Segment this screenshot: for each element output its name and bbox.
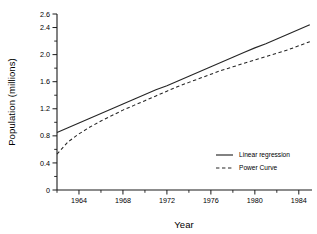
y-axis-title: Population (millions): [6, 58, 17, 146]
y-tick-label: 0: [46, 186, 50, 195]
x-axis-ticks: [57, 190, 299, 195]
y-axis-tick-labels: 00.40.81.21.62.02.42.6: [40, 10, 50, 195]
y-axis-ticks: [53, 14, 58, 190]
y-tick-label: 2.6: [40, 10, 50, 19]
legend-label: Power Curve: [239, 164, 277, 171]
y-tick-label: 0.4: [40, 159, 50, 168]
x-tick-label: 1976: [203, 196, 219, 205]
series-dashed: [57, 42, 310, 154]
x-tick-label: 1964: [71, 196, 87, 205]
x-axis-title: Year: [174, 219, 194, 230]
chart-legend: Linear regressionPower Curve: [216, 151, 290, 171]
y-tick-label: 1.2: [40, 104, 50, 113]
y-tick-label: 2.0: [40, 50, 50, 59]
y-tick-label: 1.6: [40, 77, 50, 86]
y-tick-label: 2.4: [40, 23, 50, 32]
x-axis-tick-labels: 196419681972197619801984: [71, 196, 307, 205]
population-line-chart: 00.40.81.21.62.02.42.6 19641968197219761…: [0, 0, 317, 234]
x-tick-label: 1972: [159, 196, 175, 205]
data-series-group: [57, 25, 310, 154]
x-tick-label: 1980: [247, 196, 263, 205]
x-tick-label: 1984: [291, 196, 307, 205]
x-tick-label: 1968: [115, 196, 131, 205]
series-solid: [57, 25, 310, 133]
y-tick-label: 0.8: [40, 131, 50, 140]
chart-figure: 00.40.81.21.62.02.42.6 19641968197219761…: [0, 0, 317, 234]
legend-label: Linear regression: [239, 151, 290, 159]
